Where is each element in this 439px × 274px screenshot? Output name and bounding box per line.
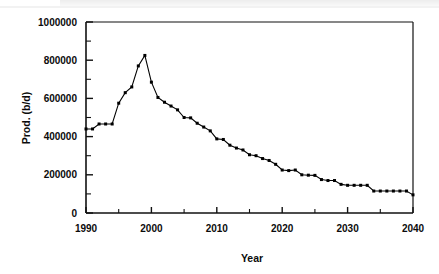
data-point	[170, 105, 173, 108]
data-point	[104, 122, 107, 125]
data-point	[228, 144, 231, 147]
data-point	[359, 184, 362, 187]
data-point	[202, 126, 205, 129]
data-point	[287, 169, 290, 172]
data-point	[235, 147, 238, 150]
data-point	[353, 184, 356, 187]
data-point	[124, 91, 127, 94]
data-point	[385, 190, 388, 193]
data-point	[98, 122, 101, 125]
data-point	[379, 190, 382, 193]
data-point	[274, 163, 277, 166]
data-point	[405, 190, 408, 193]
data-point	[163, 101, 166, 104]
y-tick-label: 200000	[44, 169, 78, 180]
data-point	[91, 127, 94, 130]
data-point	[209, 129, 212, 132]
data-point	[340, 183, 343, 186]
data-point	[156, 96, 159, 99]
x-tick-label: 2030	[336, 223, 359, 234]
data-series-line	[86, 55, 413, 194]
y-axis-label: Prod. (b/d)	[20, 92, 32, 145]
data-point	[137, 64, 140, 67]
data-point	[313, 174, 316, 177]
data-point	[307, 174, 310, 177]
data-point	[130, 85, 133, 88]
data-point	[392, 190, 395, 193]
data-point	[281, 169, 284, 172]
data-point	[366, 184, 369, 187]
plot-frame	[86, 22, 413, 213]
y-tick-label: 600000	[44, 93, 78, 104]
data-point	[326, 179, 329, 182]
data-point	[346, 184, 349, 187]
data-point	[372, 190, 375, 193]
x-tick-label: 2020	[271, 223, 294, 234]
data-point	[268, 159, 271, 162]
y-tick-label: 400000	[44, 131, 78, 142]
data-point	[176, 108, 179, 111]
data-point	[412, 193, 415, 196]
chart-figure: 02000004000006000008000001000000 1990200…	[0, 0, 439, 274]
data-point	[183, 116, 186, 119]
x-axis-label: Year	[241, 252, 263, 264]
data-point	[189, 116, 192, 119]
x-tick-label: 2000	[140, 223, 163, 234]
data-point	[222, 138, 225, 141]
data-point	[300, 173, 303, 176]
data-point	[150, 81, 153, 84]
data-point	[143, 54, 146, 57]
y-tick-label: 1000000	[38, 17, 77, 28]
x-tick-label: 1990	[75, 223, 98, 234]
data-point	[320, 178, 323, 181]
y-tick-label: 800000	[44, 55, 78, 66]
data-point	[255, 154, 258, 157]
data-point	[111, 122, 114, 125]
data-point	[215, 137, 218, 140]
data-point	[196, 122, 199, 125]
data-point	[261, 157, 264, 160]
data-series-markers	[85, 54, 415, 196]
x-axis-tick-labels: 199020002010202020302040	[75, 223, 425, 234]
x-tick-label: 2040	[402, 223, 425, 234]
y-axis-tick-labels: 02000004000006000008000001000000	[38, 17, 77, 219]
y-tick-label: 0	[71, 208, 77, 219]
data-point	[117, 102, 120, 105]
production-line-chart: 02000004000006000008000001000000 1990200…	[0, 0, 439, 274]
data-point	[398, 190, 401, 193]
data-point	[294, 169, 297, 172]
data-point	[333, 179, 336, 182]
data-point	[248, 153, 251, 156]
data-point	[241, 148, 244, 151]
data-point	[85, 127, 88, 130]
x-tick-label: 2010	[206, 223, 229, 234]
